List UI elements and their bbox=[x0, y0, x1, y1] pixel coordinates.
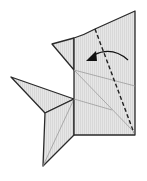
top-flap bbox=[52, 38, 74, 70]
main-body bbox=[74, 11, 135, 135]
origami-diagram bbox=[0, 0, 147, 181]
diagram-canvas bbox=[0, 0, 147, 181]
